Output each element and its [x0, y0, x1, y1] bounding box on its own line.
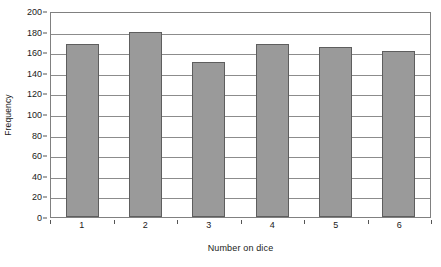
- x-tick-mark: [431, 220, 432, 224]
- y-tick-mark: [43, 218, 47, 219]
- y-tick-mark: [43, 73, 47, 74]
- y-axis-title: Frequency: [0, 0, 16, 230]
- y-tick-mark: [43, 197, 47, 198]
- y-tick-mark: [43, 53, 47, 54]
- x-tick-mark: [304, 220, 305, 224]
- y-tick-label: 100: [27, 111, 42, 120]
- x-tick-mark: [368, 220, 369, 224]
- bars-group: [51, 13, 430, 217]
- x-tick-label: 3: [177, 220, 241, 230]
- y-axis-title-label: Frequency: [3, 94, 13, 136]
- bar: [129, 32, 162, 217]
- y-tick-label: 120: [27, 90, 42, 99]
- bar: [319, 47, 352, 217]
- bar-slot: [177, 13, 240, 217]
- bar: [256, 44, 289, 217]
- y-tick-label: 60: [32, 152, 42, 161]
- y-tick-label: 40: [32, 172, 42, 181]
- y-tick-label: 20: [32, 193, 42, 202]
- bar: [382, 51, 415, 217]
- y-tick-mark: [43, 135, 47, 136]
- bar-slot: [114, 13, 177, 217]
- y-tick-mark: [43, 12, 47, 13]
- x-tick-label: 2: [114, 220, 178, 230]
- x-tick-mark: [177, 220, 178, 224]
- bar-slot: [304, 13, 367, 217]
- bar: [192, 62, 225, 217]
- x-tick-label: 4: [241, 220, 305, 230]
- x-tick-label: 5: [304, 220, 368, 230]
- y-tick-label: 140: [27, 69, 42, 78]
- y-tick-label: 80: [32, 131, 42, 140]
- x-tick-label: 1: [50, 220, 114, 230]
- y-tick-label: 160: [27, 49, 42, 58]
- bar: [66, 44, 99, 217]
- plot-area: [50, 12, 431, 218]
- y-tick-mark: [43, 32, 47, 33]
- y-tick-mark: [43, 115, 47, 116]
- x-tick-mark: [114, 220, 115, 224]
- bar-slot: [51, 13, 114, 217]
- x-tick-mark: [50, 220, 51, 224]
- y-axis-tick-labels: 020406080100120140160180200: [16, 12, 46, 218]
- y-tick-mark: [43, 156, 47, 157]
- bar-chart: Frequency 020406080100120140160180200 12…: [0, 0, 441, 267]
- y-tick-mark: [43, 176, 47, 177]
- x-tick-label: 6: [368, 220, 432, 230]
- y-tick-label: 200: [27, 8, 42, 17]
- bar-slot: [241, 13, 304, 217]
- y-tick-label: 0: [37, 214, 42, 223]
- y-tick-label: 180: [27, 28, 42, 37]
- x-axis-title: Number on dice: [50, 243, 431, 253]
- x-axis-tick-labels: 123456: [50, 220, 431, 238]
- bar-slot: [367, 13, 430, 217]
- y-tick-mark: [43, 94, 47, 95]
- x-tick-mark: [241, 220, 242, 224]
